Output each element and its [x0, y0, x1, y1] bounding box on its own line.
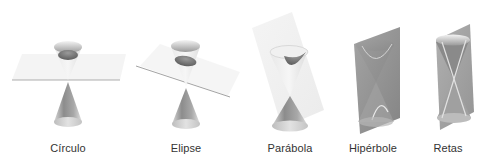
label-circulo: Círculo [28, 142, 108, 154]
label-parabola: Parábola [250, 142, 330, 154]
lower-nappe [172, 88, 200, 124]
label-retas: Retas [408, 142, 483, 154]
panel-circulo [12, 41, 126, 127]
panel-hiperbole [354, 27, 400, 134]
lower-nappe [54, 82, 82, 122]
panel-parabola [252, 12, 324, 132]
cone-rim [171, 40, 200, 52]
cone-base [272, 121, 308, 132]
cone-cup [58, 50, 78, 60]
label-hiperbole: Hipérbole [333, 142, 413, 154]
cone-base [172, 119, 200, 129]
cone-base [359, 117, 393, 127]
panel-retas [436, 24, 474, 130]
cone-base [54, 117, 82, 127]
label-elipse: Elipse [146, 142, 226, 154]
panel-elipse [136, 40, 240, 129]
